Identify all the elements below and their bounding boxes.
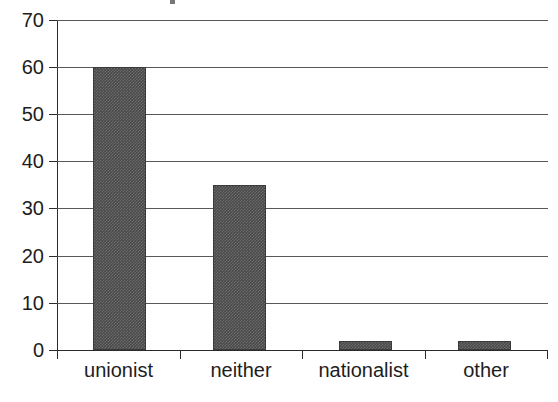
x-divider-right (547, 350, 548, 359)
y-tick-mark-40 (49, 161, 57, 162)
bar-other (458, 341, 511, 350)
y-tick-label-10: 10 (0, 293, 44, 313)
x-axis-label-other: other (425, 358, 547, 382)
plot-area (57, 20, 548, 350)
y-axis-labels: 70 60 50 40 30 20 10 0 (0, 0, 44, 402)
y-tick-label-0: 0 (0, 340, 44, 360)
y-tick-label-50: 50 (0, 104, 44, 124)
y-tick-label-40: 40 (0, 151, 44, 171)
bar-chart: 70 60 50 40 30 20 10 0 unionist neither (0, 0, 558, 402)
x-axis-label-neither: neither (180, 358, 302, 382)
x-axis-label-unionist: unionist (57, 358, 180, 382)
y-tick-mark-60 (49, 67, 57, 68)
bar-neither (213, 185, 266, 350)
bar-unionist (93, 67, 146, 350)
y-tick-label-70: 70 (0, 10, 44, 30)
y-tick-mark-10 (49, 303, 57, 304)
y-tick-label-30: 30 (0, 198, 44, 218)
x-axis-label-nationalist: nationalist (302, 358, 425, 382)
gridline-70 (57, 20, 548, 21)
y-tick-mark-70 (49, 20, 57, 21)
y-tick-label-60: 60 (0, 57, 44, 77)
y-tick-mark-30 (49, 208, 57, 209)
y-tick-mark-50 (49, 114, 57, 115)
y-tick-label-20: 20 (0, 246, 44, 266)
y-tick-mark-0 (49, 350, 57, 351)
bar-nationalist (339, 341, 392, 350)
cropped-title-remnant (170, 0, 175, 4)
y-tick-mark-20 (49, 256, 57, 257)
